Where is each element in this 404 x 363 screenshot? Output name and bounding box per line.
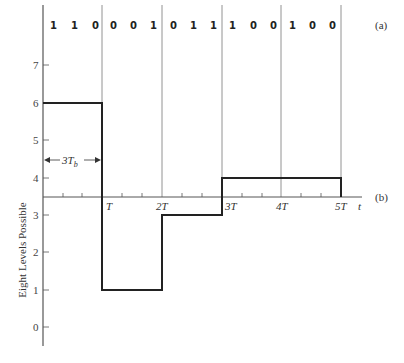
x-axis-label: t bbox=[358, 200, 362, 212]
bit: 1 bbox=[150, 20, 157, 31]
bit: 1 bbox=[190, 20, 197, 31]
part-b-label: (b) bbox=[375, 191, 388, 204]
bit: 0 bbox=[250, 20, 257, 31]
x-tick-2T: 2T bbox=[156, 200, 169, 212]
y-tick-1: 1 bbox=[33, 284, 39, 296]
bit: 0 bbox=[110, 20, 117, 31]
bit: 1 bbox=[71, 20, 78, 31]
y-tick-6: 6 bbox=[33, 97, 39, 109]
bit: 1 bbox=[50, 20, 57, 31]
x-tick-3T: 3T bbox=[224, 200, 238, 212]
bit: 0 bbox=[130, 20, 137, 31]
bit: 0 bbox=[309, 20, 316, 31]
bit: 0 bbox=[170, 20, 177, 31]
y-axis-label: Eight Levels Possible bbox=[16, 202, 28, 297]
y-tick-7: 7 bbox=[33, 59, 39, 71]
part-a-label: (a) bbox=[375, 19, 388, 32]
bit: 1 bbox=[229, 20, 236, 31]
multilevel-signaling-diagram: 0 1 2 3 4 5 6 7 Eight Levels Possible T … bbox=[0, 0, 404, 363]
x-tick-T: T bbox=[106, 200, 113, 212]
symbol-boundaries bbox=[102, 5, 341, 197]
bit: 1 bbox=[289, 20, 296, 31]
bit: 0 bbox=[270, 20, 277, 31]
x-tick-4T: 4T bbox=[276, 200, 289, 212]
bit: 0 bbox=[329, 20, 336, 31]
x-tick-5T: 5T bbox=[335, 200, 348, 212]
y-tick-4: 4 bbox=[33, 172, 39, 184]
y-tick-0: 0 bbox=[33, 321, 39, 333]
y-ticks bbox=[43, 65, 49, 327]
y-tick-5: 5 bbox=[33, 134, 39, 146]
y-tick-3: 3 bbox=[33, 209, 39, 221]
bit-sequence: 1 1 0 0 0 1 0 1 1 1 0 0 1 0 0 bbox=[50, 20, 336, 31]
symbol-duration-label: 3Tb bbox=[61, 154, 78, 169]
y-tick-2: 2 bbox=[33, 246, 39, 258]
bit: 0 bbox=[92, 20, 99, 31]
bit: 1 bbox=[210, 20, 217, 31]
